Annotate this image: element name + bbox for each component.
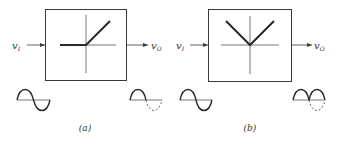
input-label-b: vI xyxy=(176,40,185,52)
output-waveform-a xyxy=(130,90,162,111)
output-waveform-b xyxy=(293,90,325,111)
transfer-curve-halfwave xyxy=(60,21,110,45)
caption-a: (a) xyxy=(79,123,92,133)
input-waveform-a xyxy=(17,90,50,111)
panel-b: vI vO (b) xyxy=(176,10,325,134)
input-waveform-b xyxy=(180,90,212,111)
caption-b: (b) xyxy=(244,123,257,133)
panel-a: vI vO (a) xyxy=(12,10,162,134)
output-label-b: vO xyxy=(314,40,325,52)
rectifier-diagram: vI vO (a) vI xyxy=(0,0,340,146)
input-label-a: vI xyxy=(12,40,21,52)
output-label-a: vO xyxy=(151,40,162,52)
